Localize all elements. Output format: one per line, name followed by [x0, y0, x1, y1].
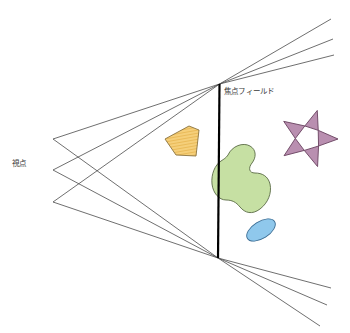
focal-field-diagram: 視点 焦点フィールド — [0, 0, 350, 333]
viewpoint-label: 視点 — [12, 160, 26, 168]
ray-vp1-bottom — [53, 139, 218, 258]
green-blob — [212, 144, 271, 212]
ray-top-lower — [220, 55, 335, 84]
blue-ellipse — [243, 214, 279, 245]
ray-bottom-lower — [218, 258, 320, 326]
ray-vp2-bottom — [53, 170, 218, 258]
ray-vp3-bottom — [53, 202, 218, 258]
ray-bundle-top-right — [220, 19, 335, 84]
ray-top-upper — [220, 19, 332, 84]
ray-bottom-middle — [218, 258, 327, 305]
orange-quadrilateral — [165, 126, 199, 156]
focal-field-label: 焦点フィールド — [224, 88, 274, 96]
orange-quadrilateral-hatch — [165, 126, 199, 156]
diagram-canvas — [0, 0, 350, 333]
focal-field-axis — [218, 84, 220, 258]
ray-bundle-bottom-right — [218, 258, 331, 326]
ray-bottom-upper — [218, 258, 331, 288]
purple-star-shape — [274, 102, 345, 170]
ray-bundle-left — [53, 84, 220, 258]
ray-top-middle — [220, 39, 334, 84]
purple-star — [274, 102, 345, 170]
